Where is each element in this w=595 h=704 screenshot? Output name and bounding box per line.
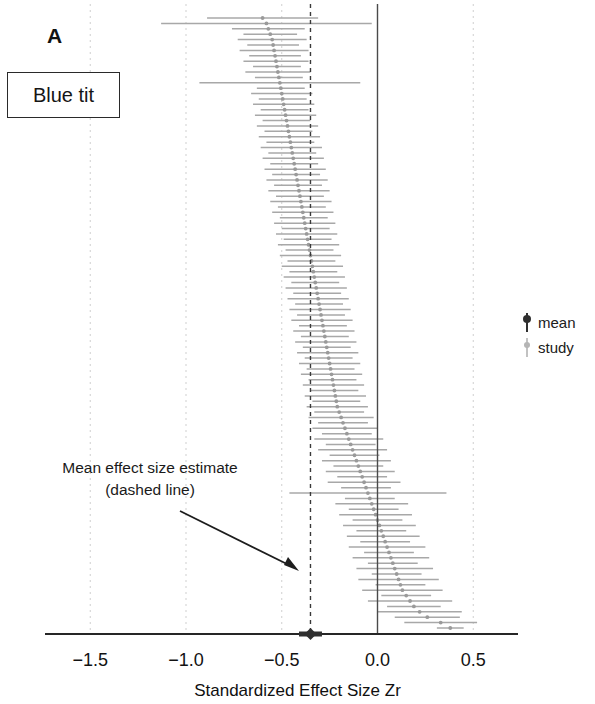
mean-annotation-line1: Mean effect size estimate (0, 457, 300, 478)
legend-markers-group (523, 313, 531, 357)
x-tick-label-0: −1.5 (50, 650, 130, 671)
x-tick-label-3: 0.0 (338, 650, 418, 671)
mean-diamond-marker (299, 628, 322, 640)
species-label-box: Blue tit (7, 72, 120, 118)
x-tick-label-4: 0.5 (433, 650, 513, 671)
forest-plot-figure: A Blue tit Mean effect size estimate (da… (0, 0, 595, 704)
mean-annotation-line2: (dashed line) (0, 479, 300, 500)
legend-label-mean: mean (538, 314, 576, 331)
x-tick-label-2: −0.5 (242, 650, 322, 671)
annotation-arrow (180, 511, 299, 571)
legend-label-study: study (538, 339, 574, 356)
panel-letter: A (47, 24, 63, 48)
study-rows-group (161, 16, 477, 630)
x-axis-title: Standardized Effect Size Zr (0, 681, 595, 701)
x-tick-label-1: −1.0 (146, 650, 226, 671)
reference-lines-group (310, 4, 377, 634)
